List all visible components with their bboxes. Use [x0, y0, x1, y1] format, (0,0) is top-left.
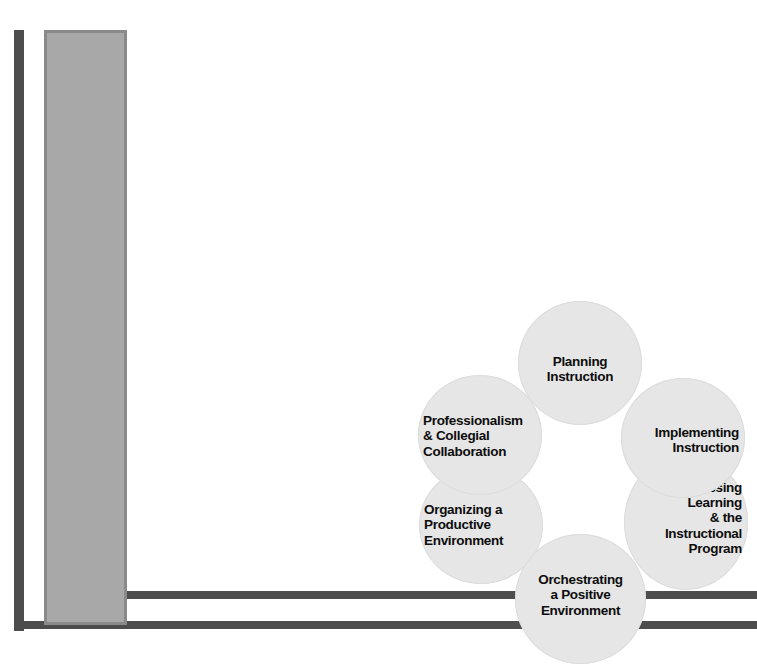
node-label-professionalism: Professionalism & Collegial Collaboratio…: [416, 413, 540, 458]
node-label-orchestrating: Orchestrating a Positive Environment: [515, 572, 646, 617]
figure-canvas: Planning Instruction Implementing Instru…: [0, 0, 757, 669]
node-circle-orchestrating: Orchestrating a Positive Environment: [515, 534, 646, 664]
cycle-diagram: Planning Instruction Implementing Instru…: [408, 296, 757, 626]
node-circle-implementing: Implementing Instruction: [621, 378, 745, 498]
node-circle-professionalism: Professionalism & Collegial Collaboratio…: [418, 375, 542, 495]
left-vertical-rule: [14, 30, 24, 631]
node-label-planning: Planning Instruction: [518, 354, 642, 384]
gray-side-panel: [44, 30, 127, 625]
node-label-implementing: Implementing Instruction: [622, 425, 746, 455]
node-label-organizing: Organizing a Productive Environment: [417, 502, 541, 547]
node-circle-planning: Planning Instruction: [518, 301, 642, 425]
